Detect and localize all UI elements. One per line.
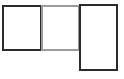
middle-pane-content: [43, 7, 78, 49]
right-pane[interactable]: [79, 4, 118, 71]
middle-pane[interactable]: [41, 5, 80, 51]
pane-canvas: [0, 0, 124, 79]
left-pane-content: [4, 7, 40, 49]
left-pane[interactable]: [2, 5, 42, 51]
right-pane-content: [81, 6, 116, 69]
